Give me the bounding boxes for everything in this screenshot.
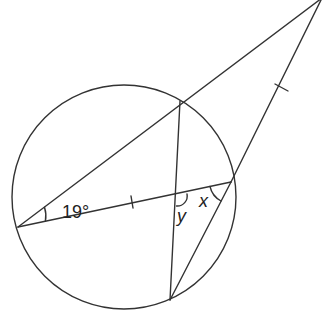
angle-label-19: 19° — [62, 202, 89, 222]
angle-label-y: y — [175, 206, 187, 226]
tick-mark-chord — [131, 196, 133, 208]
chord-top-bottom — [170, 101, 180, 300]
angle-arc-y — [177, 194, 188, 206]
segment-right-to-apex — [231, 0, 322, 182]
angle-label-x: x — [198, 191, 209, 211]
angle-arc-19 — [45, 207, 46, 221]
secant-left-to-apex — [18, 0, 322, 227]
geometry-diagram: 19° x y — [0, 0, 327, 320]
angle-arc-x — [210, 187, 221, 202]
